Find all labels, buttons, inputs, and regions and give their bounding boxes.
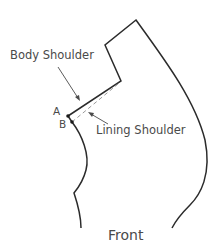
lining-shoulder-arrowhead-icon: [88, 112, 94, 117]
lining-shoulder-label: Lining Shoulder: [96, 125, 186, 137]
diagram-title: Front: [108, 228, 143, 242]
point-b-dot: [70, 120, 74, 124]
point-a-label: A: [53, 106, 60, 117]
body-shoulder-label: Body Shoulder: [10, 50, 94, 62]
armhole-curve: [72, 122, 87, 228]
body-shoulder-arrow-icon: [58, 67, 78, 98]
point-b-label: B: [59, 119, 66, 130]
body-shoulder-arrowhead-icon: [75, 95, 80, 101]
point-a-dot: [66, 114, 70, 118]
